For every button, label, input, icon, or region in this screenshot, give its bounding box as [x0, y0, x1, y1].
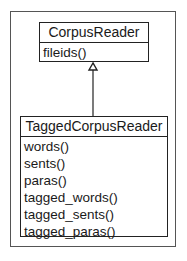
method: paras() [24, 172, 164, 189]
method: sents() [24, 155, 164, 172]
method: tagged_paras() [24, 223, 164, 240]
method-list: words() sents() paras() tagged_words() t… [21, 137, 167, 241]
method: tagged_words() [24, 189, 164, 206]
method: tagged_sents() [24, 206, 164, 223]
hollow-triangle-icon [89, 63, 97, 70]
class-name: TaggedCorpusReader [21, 117, 167, 137]
class-taggedcorpusreader: TaggedCorpusReader words() sents() paras… [20, 116, 168, 237]
method: words() [24, 138, 164, 155]
